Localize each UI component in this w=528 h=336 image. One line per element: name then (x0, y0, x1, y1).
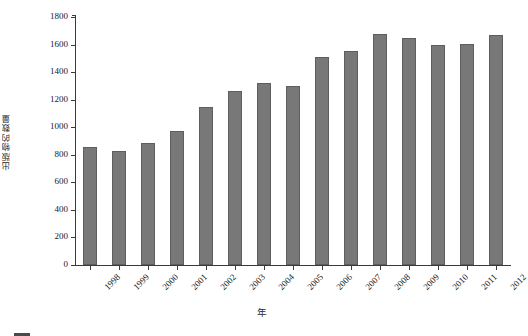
y-axis-top-cap (72, 15, 76, 16)
x-axis-tick-label: 2011 (479, 272, 499, 292)
bar (402, 38, 416, 265)
y-axis-tick-label: 800 (28, 150, 68, 159)
bar (286, 86, 300, 265)
bar (141, 143, 155, 265)
x-axis-tick-label: 2006 (334, 272, 354, 292)
x-axis-tick-label: 2002 (218, 272, 238, 292)
x-axis-tick-label: 2001 (190, 272, 210, 292)
x-axis-tick-label: 2008 (392, 272, 412, 292)
y-axis-tick-label: 0 (28, 260, 68, 269)
x-axis-tick-label: 2000 (161, 272, 181, 292)
y-axis-tick-label: 1200 (28, 95, 68, 104)
x-axis-title: 年 (0, 305, 523, 319)
bar (228, 91, 242, 265)
y-axis-tick-label: 400 (28, 205, 68, 214)
x-axis-tick-label: 2004 (276, 272, 296, 292)
plot-area (76, 17, 510, 265)
x-axis-tick (322, 266, 323, 270)
x-axis-tick-label: 1999 (132, 272, 152, 292)
x-axis-tick (496, 266, 497, 270)
y-axis-title: 出版物的数量 (2, 96, 16, 188)
x-axis-tick (177, 266, 178, 270)
bar (257, 83, 271, 265)
x-axis-tick-label: 2003 (247, 272, 267, 292)
bar (315, 57, 329, 265)
y-axis-tick-label: 1000 (28, 122, 68, 131)
y-axis-tick-label: 200 (28, 232, 68, 241)
bar (170, 131, 184, 265)
y-axis-tick-label: 1400 (28, 67, 68, 76)
x-axis-tick (119, 266, 120, 270)
x-axis-tick (380, 266, 381, 270)
x-axis-tick-label: 2005 (305, 272, 325, 292)
x-axis-tick (467, 266, 468, 270)
y-axis-tick-label: 600 (28, 177, 68, 186)
bar (489, 35, 503, 265)
figure-caption (14, 330, 514, 336)
x-axis-tick (148, 266, 149, 270)
y-axis-tick-label: 1800 (28, 12, 68, 21)
y-axis-tick-label: 1600 (28, 40, 68, 49)
x-axis-tick-label: 2010 (450, 272, 470, 292)
x-axis-tick-label: 1998 (103, 272, 123, 292)
x-axis-tick (409, 266, 410, 270)
y-axis-tick (71, 265, 76, 266)
x-axis-tick (293, 266, 294, 270)
x-axis-tick (351, 266, 352, 270)
x-axis-tick (235, 266, 236, 270)
x-axis-tick-label: 2012 (508, 272, 528, 292)
bar (199, 107, 213, 265)
bar (460, 44, 474, 265)
x-axis-tick-label: 2009 (421, 272, 441, 292)
bar (431, 45, 445, 265)
x-axis-tick (438, 266, 439, 270)
x-axis-tick (264, 266, 265, 270)
x-axis-tick (90, 266, 91, 270)
bar (112, 151, 126, 265)
x-axis-tick (206, 266, 207, 270)
bar (83, 147, 97, 265)
bar (344, 51, 358, 265)
x-axis-tick-label: 2007 (363, 272, 383, 292)
bar (373, 34, 387, 265)
